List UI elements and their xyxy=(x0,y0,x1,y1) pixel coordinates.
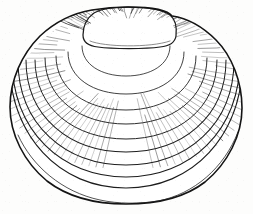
umbo-group xyxy=(83,7,176,49)
shell-drawing-canvas xyxy=(0,0,253,214)
shell-illustration-figure: Engraved line drawing of a clam shell se… xyxy=(0,0,253,214)
umbo-fill xyxy=(83,7,176,49)
